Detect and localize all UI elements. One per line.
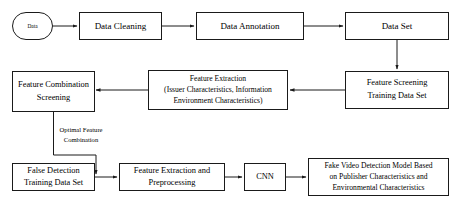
node-data-cleaning-label: Data Cleaning [95, 21, 147, 31]
node-data-label: Data [27, 23, 38, 29]
edge-label-optimal-feature-combination-line1: Optimal Feature [59, 126, 102, 133]
flowchart-diagram: Data Data Cleaning Data Annotation Data … [0, 0, 461, 205]
flowchart-canvas: Data Data Cleaning Data Annotation Data … [0, 0, 461, 205]
node-feature-screening-label-line1: Feature Screening [367, 78, 429, 87]
node-false-detection-label-line1: False Detection [27, 166, 80, 175]
node-feature-screening-label-line2: Training Data Set [367, 91, 427, 100]
node-data-annotation: Data Annotation [197, 13, 304, 40]
edge-label-optimal-feature-combination: Optimal Feature Combination [59, 126, 102, 143]
node-data-set: Data Set [346, 13, 449, 40]
node-feature-extraction-label-line2: (Issuer Characteristics, Information [164, 85, 272, 94]
node-feature-extraction-preprocessing-label-line1: Feature Extraction and [134, 166, 211, 175]
node-data-cleaning: Data Cleaning [80, 13, 162, 40]
edge-label-optimal-feature-combination-line2: Combination [64, 136, 99, 143]
node-feature-combination-shape [13, 72, 95, 112]
node-feature-extraction: Feature Extraction (Issuer Characteristi… [149, 71, 288, 110]
node-false-detection-training-data-set: False Detection Training Data Set [13, 164, 95, 191]
node-feature-extraction-and-preprocessing: Feature Extraction and Preprocessing [120, 164, 225, 191]
node-fake-video-detection-model: Fake Video Detection Model Based on Publ… [309, 159, 449, 196]
node-feature-combination-label-line1: Feature Combination [18, 80, 90, 89]
node-feature-combination-screening: Feature Combination Screening [13, 72, 95, 112]
node-data: Data [13, 13, 53, 40]
node-fake-video-detection-model-label-line2: on Publisher Characteristics and [329, 172, 427, 181]
node-cnn: CNN [245, 164, 286, 191]
node-feature-extraction-label-line1: Feature Extraction [190, 74, 246, 83]
node-feature-extraction-preprocessing-label-line2: Preprocessing [149, 178, 197, 187]
node-fake-video-detection-model-label-line3: Environmental Characteristics [332, 183, 424, 192]
node-false-detection-label-line2: Training Data Set [24, 178, 84, 187]
node-cnn-label: CNN [256, 172, 274, 181]
node-feature-combination-label-line2: Screening [37, 93, 71, 102]
node-feature-screening-training-data-set: Feature Screening Training Data Set [346, 72, 449, 109]
node-data-annotation-label: Data Annotation [220, 21, 280, 31]
node-fake-video-detection-model-label-line1: Fake Video Detection Model Based [324, 161, 432, 170]
node-data-set-label: Data Set [382, 21, 413, 31]
node-feature-extraction-label-line3: Environment Characteristics) [173, 96, 263, 105]
